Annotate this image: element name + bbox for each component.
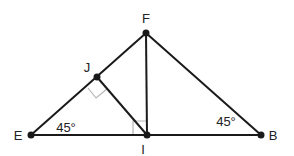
right-angle-marker-j xyxy=(88,88,107,98)
geometry-diagram: F J E I B 45° 45° xyxy=(0,0,294,155)
angle-label-e: 45° xyxy=(56,121,76,134)
segment-fb xyxy=(146,33,261,135)
label-j: J xyxy=(84,61,91,74)
segment-ji xyxy=(97,77,147,135)
point-b xyxy=(258,132,265,139)
point-e xyxy=(28,132,35,139)
label-b: B xyxy=(269,129,278,142)
segment-fi xyxy=(146,33,147,135)
label-e: E xyxy=(14,129,23,142)
point-i xyxy=(144,132,151,139)
angle-label-b: 45° xyxy=(216,115,236,128)
point-j xyxy=(94,74,101,81)
label-f: F xyxy=(142,12,150,25)
point-f xyxy=(143,30,150,37)
segment-ef xyxy=(31,33,146,135)
label-i: I xyxy=(141,143,145,156)
